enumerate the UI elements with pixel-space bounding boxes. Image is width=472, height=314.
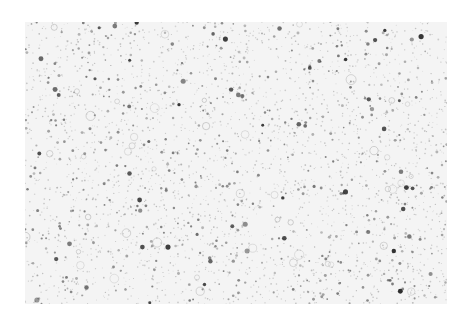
- speckle-field: [25, 22, 447, 304]
- speckle-texture-image: [25, 22, 447, 304]
